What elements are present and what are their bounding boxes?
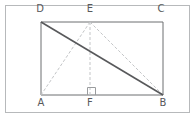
vertex-label-C: C	[158, 4, 165, 14]
geometry-figure: D E C A F B	[0, 0, 196, 121]
figure-canvas	[0, 0, 196, 121]
segment-EA	[41, 22, 90, 95]
right-angle-at-F-icon	[88, 88, 96, 96]
vertex-label-A: A	[38, 98, 45, 108]
vertex-label-F: F	[87, 98, 93, 108]
vertex-label-B: B	[160, 98, 167, 108]
vertex-label-D: D	[36, 4, 44, 14]
vertex-label-E: E	[87, 4, 93, 14]
diagonal-DB	[41, 22, 163, 95]
